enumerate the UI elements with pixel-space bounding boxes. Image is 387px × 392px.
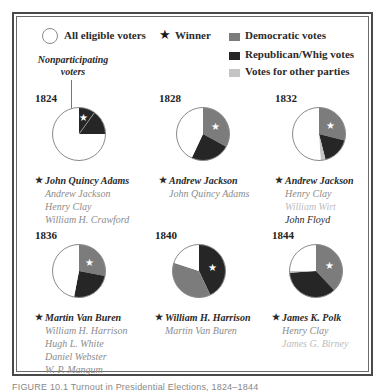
candidate-label: Andrew Jackson bbox=[169, 175, 238, 186]
turnout-pie-chart: ★ bbox=[171, 243, 227, 299]
candidate-name: Henry Clay bbox=[35, 200, 129, 213]
candidate-label: John Quincy Adams bbox=[45, 175, 129, 186]
candidate-name: James G. Birney bbox=[272, 337, 348, 350]
candidate-label: Andrew Jackson bbox=[285, 175, 354, 186]
candidate-label: William H. Crawford bbox=[45, 214, 129, 225]
all-eligible-voters-icon bbox=[42, 28, 58, 44]
candidate-name: Henry Clay bbox=[275, 187, 354, 200]
candidate-label: Henry Clay bbox=[285, 188, 331, 199]
candidate-name: William H. Harrison bbox=[35, 324, 128, 337]
winning-candidate: ★Martin Van Buren bbox=[35, 311, 128, 324]
candidate-name: John Floyd bbox=[275, 213, 354, 226]
other-parties-swatch-icon bbox=[229, 69, 240, 77]
candidate-label: Henry Clay bbox=[45, 201, 91, 212]
winning-candidate: ★John Quincy Adams bbox=[35, 174, 129, 187]
turnout-pie-chart: ★ bbox=[291, 106, 347, 162]
candidate-label: William Wirt bbox=[285, 201, 336, 212]
legend-winner-label: Winner bbox=[175, 29, 211, 41]
winner-star-icon: ★ bbox=[326, 120, 335, 131]
winner-star-icon: ★ bbox=[211, 121, 220, 132]
candidate-name: Hugh L. White bbox=[35, 337, 128, 350]
candidate-list: ★Martin Van BurenWilliam H. HarrisonHugh… bbox=[35, 311, 128, 376]
candidate-name: W. P. Mangum bbox=[35, 363, 128, 376]
candidate-label: W. P. Mangum bbox=[45, 364, 103, 375]
democratic-swatch-icon bbox=[229, 33, 240, 41]
candidate-label: John Quincy Adams bbox=[169, 188, 249, 199]
winner-star-icon: ★ bbox=[79, 112, 88, 123]
candidate-label: Martin Van Buren bbox=[45, 312, 121, 323]
candidate-label: Daniel Webster bbox=[45, 351, 107, 362]
winner-star-icon: ★ bbox=[159, 27, 171, 42]
legend-other-parties-label: Votes for other parties bbox=[245, 65, 350, 77]
republican-whig-swatch-icon bbox=[229, 52, 240, 60]
candidate-list: ★Andrew JacksonHenry ClayWilliam WirtJoh… bbox=[275, 174, 354, 226]
candidate-label: Hugh L. White bbox=[45, 338, 104, 349]
candidate-label: Andrew Jackson bbox=[45, 188, 110, 199]
candidate-list: ★Andrew JacksonJohn Quincy Adams bbox=[159, 174, 249, 200]
winning-candidate: ★William H. Harrison bbox=[155, 311, 250, 324]
winner-star-icon: ★ bbox=[35, 311, 43, 324]
candidate-name: John Quincy Adams bbox=[159, 187, 249, 200]
candidate-name: Martin Van Buren bbox=[155, 324, 250, 337]
candidate-label: William H. Harrison bbox=[165, 312, 250, 323]
election-year: 1840 bbox=[155, 229, 177, 241]
election-year: 1824 bbox=[35, 92, 57, 104]
nonparticipating-voters-annotation: Nonparticipating voters bbox=[33, 54, 113, 78]
candidate-list: ★William H. HarrisonMartin Van Buren bbox=[155, 311, 250, 337]
winner-star-icon: ★ bbox=[275, 174, 283, 187]
winner-star-icon: ★ bbox=[208, 262, 217, 273]
winning-candidate: ★Andrew Jackson bbox=[275, 174, 354, 187]
winning-candidate: ★Andrew Jackson bbox=[159, 174, 249, 187]
winner-star-icon: ★ bbox=[85, 257, 94, 268]
legend-democratic-label: Democratic votes bbox=[245, 29, 326, 41]
election-year: 1828 bbox=[159, 92, 181, 104]
candidate-list: ★James K. PolkHenry ClayJames G. Birney bbox=[272, 311, 348, 350]
candidate-label: Martin Van Buren bbox=[165, 325, 237, 336]
turnout-pie-chart: ★ bbox=[51, 106, 107, 162]
winner-star-icon: ★ bbox=[155, 311, 163, 324]
turnout-pie-chart: ★ bbox=[51, 243, 107, 299]
candidate-label: James G. Birney bbox=[282, 338, 348, 349]
turnout-pie-chart: ★ bbox=[175, 106, 231, 162]
figure-caption: FIGURE 10.1 Turnout in Presidential Elec… bbox=[12, 382, 258, 392]
election-year: 1844 bbox=[272, 229, 294, 241]
election-year: 1832 bbox=[275, 92, 297, 104]
candidate-list: ★John Quincy AdamsAndrew JacksonHenry Cl… bbox=[35, 174, 129, 226]
winner-star-icon: ★ bbox=[325, 260, 334, 271]
winner-star-icon: ★ bbox=[159, 174, 167, 187]
winner-star-icon: ★ bbox=[35, 174, 43, 187]
candidate-label: William H. Harrison bbox=[45, 325, 128, 336]
turnout-pie-chart: ★ bbox=[288, 243, 344, 299]
winning-candidate: ★James K. Polk bbox=[272, 311, 348, 324]
candidate-label: James K. Polk bbox=[282, 312, 341, 323]
candidate-name: William H. Crawford bbox=[35, 213, 129, 226]
election-year: 1836 bbox=[35, 229, 57, 241]
candidate-name: William Wirt bbox=[275, 200, 354, 213]
candidate-name: Andrew Jackson bbox=[35, 187, 129, 200]
nonparticipating-slice bbox=[293, 108, 321, 161]
winner-star-icon: ★ bbox=[272, 311, 280, 324]
candidate-name: Daniel Webster bbox=[35, 350, 128, 363]
legend-all-eligible-label: All eligible voters bbox=[64, 29, 146, 41]
candidate-label: John Floyd bbox=[285, 214, 330, 225]
candidate-label: Henry Clay bbox=[282, 325, 328, 336]
legend-republican-whig-label: Republican/Whig votes bbox=[245, 48, 354, 60]
nonparticipating-slice bbox=[52, 245, 79, 298]
candidate-name: Henry Clay bbox=[272, 324, 348, 337]
